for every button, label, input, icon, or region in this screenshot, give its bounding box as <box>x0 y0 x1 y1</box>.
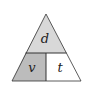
label-t: t <box>57 60 63 75</box>
formula-triangle: d v t <box>0 0 96 96</box>
bottom-right-section <box>46 53 81 81</box>
label-d: d <box>41 31 49 46</box>
label-v: v <box>28 60 36 75</box>
